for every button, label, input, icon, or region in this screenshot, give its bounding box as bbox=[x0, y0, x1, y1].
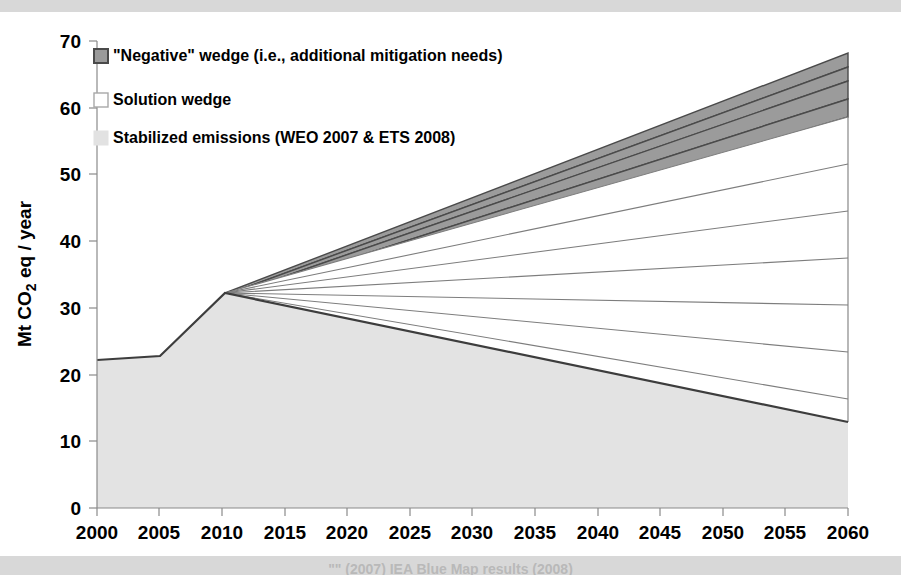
y-tick-label-40: 40 bbox=[60, 231, 81, 252]
legend-swatch-solution-wedge bbox=[94, 93, 108, 107]
x-tick-labels: 2000 2005 2010 2015 2020 2025 2030 2035 … bbox=[76, 522, 869, 543]
x-tick-label-2045: 2045 bbox=[639, 522, 682, 543]
svg-text:Mt CO2 eq / year: Mt CO2 eq / year bbox=[14, 200, 39, 347]
x-tick-label-2060: 2060 bbox=[827, 522, 869, 543]
y-tick-label-10: 10 bbox=[60, 431, 81, 452]
x-tick-label-2035: 2035 bbox=[514, 522, 557, 543]
legend-item-solution-wedge[interactable]: Solution wedge bbox=[94, 91, 231, 108]
emissions-wedge-chart: 70 60 50 40 30 20 10 0 2000 2005 2010 20… bbox=[0, 12, 901, 556]
x-tick-label-2010: 2010 bbox=[201, 522, 243, 543]
y-axis-title-main: Mt CO bbox=[14, 291, 35, 347]
figure-caption: "" (2007) IEA Blue Map results (2008) bbox=[0, 556, 901, 575]
legend-label-negative-wedge: "Negative" wedge (i.e., additional mitig… bbox=[113, 47, 502, 64]
chart-figure: 70 60 50 40 30 20 10 0 2000 2005 2010 20… bbox=[0, 12, 901, 556]
y-tick-label-70: 70 bbox=[60, 31, 81, 52]
legend-item-negative-wedge[interactable]: "Negative" wedge (i.e., additional mitig… bbox=[94, 47, 502, 64]
x-tick-label-2050: 2050 bbox=[702, 522, 744, 543]
x-tick-label-2040: 2040 bbox=[577, 522, 619, 543]
y-tick-label-50: 50 bbox=[60, 164, 81, 185]
y-tick-label-0: 0 bbox=[70, 498, 81, 519]
legend-swatch-stabilized-emissions bbox=[94, 131, 108, 145]
y-tick-labels: 70 60 50 40 30 20 10 0 bbox=[60, 31, 81, 519]
x-tick-label-2015: 2015 bbox=[264, 522, 307, 543]
y-axis-title-subscript: 2 bbox=[23, 283, 39, 291]
x-tick-label-2005: 2005 bbox=[138, 522, 181, 543]
x-tick-label-2025: 2025 bbox=[389, 522, 432, 543]
x-tick-label-2030: 2030 bbox=[451, 522, 493, 543]
x-tick-label-2000: 2000 bbox=[76, 522, 118, 543]
legend-label-stabilized-emissions: Stabilized emissions (WEO 2007 & ETS 200… bbox=[113, 129, 455, 146]
x-tick-label-2020: 2020 bbox=[326, 522, 368, 543]
y-tick-label-60: 60 bbox=[60, 98, 81, 119]
legend-swatch-negative-wedge bbox=[94, 49, 108, 63]
y-axis-title: Mt CO2 eq / year bbox=[14, 200, 39, 347]
y-tick-label-20: 20 bbox=[60, 365, 81, 386]
legend-item-stabilized-emissions[interactable]: Stabilized emissions (WEO 2007 & ETS 200… bbox=[94, 129, 455, 146]
x-tick-label-2055: 2055 bbox=[764, 522, 807, 543]
y-tick-label-30: 30 bbox=[60, 298, 81, 319]
legend-label-solution-wedge: Solution wedge bbox=[113, 91, 231, 108]
y-axis-title-rest: eq / year bbox=[14, 200, 35, 283]
